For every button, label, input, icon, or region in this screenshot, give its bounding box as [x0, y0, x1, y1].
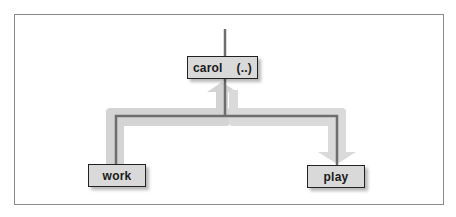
node-work-label: work: [103, 169, 132, 183]
node-carol: carol (..): [187, 56, 258, 79]
node-play: play: [307, 165, 365, 188]
tree-diagram: [0, 0, 456, 217]
node-play-label: play: [324, 170, 349, 184]
node-carol-label: carol: [193, 61, 223, 75]
up-arrow-path: [106, 82, 237, 166]
node-work: work: [88, 164, 146, 187]
node-carol-suffix: (..): [237, 61, 252, 75]
